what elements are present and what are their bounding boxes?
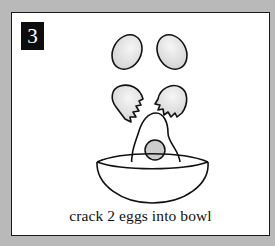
whole-egg-left-icon xyxy=(106,30,148,75)
whole-egg-right-icon xyxy=(151,30,193,75)
cracked-shell-right-icon xyxy=(155,86,187,117)
step-caption: crack 2 eggs into bowl xyxy=(12,207,269,225)
crack-eggs-illustration xyxy=(12,13,271,237)
step-card: 3 xyxy=(11,12,270,236)
cracked-shell-left-icon xyxy=(112,85,143,122)
